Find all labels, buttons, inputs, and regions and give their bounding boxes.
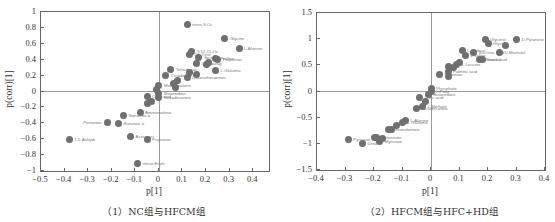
x-tick-mark xyxy=(516,167,517,170)
y-tick-label: −0.5 xyxy=(282,112,312,122)
x-tick-label: −0.2 xyxy=(358,173,388,183)
x-tick-label: 0.3 xyxy=(501,173,531,183)
y-tick-mark xyxy=(317,12,320,13)
x-tick-mark xyxy=(544,167,545,170)
data-point xyxy=(345,136,352,143)
data-point xyxy=(513,36,520,43)
y-tick-label: −1 xyxy=(282,138,312,148)
data-point xyxy=(436,71,443,78)
x-tick-mark xyxy=(487,167,488,170)
x-tick-mark xyxy=(316,167,317,170)
x-tick-mark xyxy=(345,167,346,170)
x-axis-label: p[1] xyxy=(410,186,450,196)
x-tick-label: 0 xyxy=(415,173,445,183)
point-label: D-Mannitol xyxy=(504,50,525,55)
x-tick-mark xyxy=(430,167,431,170)
x-tick-label: 0.1 xyxy=(444,173,474,183)
x-tick-mark xyxy=(402,167,403,170)
point-label: Stearic acid xyxy=(484,57,506,62)
data-point xyxy=(502,42,509,49)
point-label: D-Pyranose xyxy=(522,37,545,42)
y-tick-mark xyxy=(317,143,320,144)
point-label: Octadecanoic xyxy=(422,106,448,111)
y-axis-label: p(corr)[1] xyxy=(282,70,292,107)
point-label: Ethanolamine xyxy=(393,127,419,132)
figure-caption: （2）HFCM组与HFC+HD组 xyxy=(312,204,552,218)
y-tick-mark xyxy=(317,64,320,65)
y-tick-label: 0.5 xyxy=(282,59,312,69)
data-point xyxy=(399,119,406,126)
y-tick-mark xyxy=(317,91,320,92)
chart-hfcm-vs-hfc-hd: D-PyranoseGlycerolGlycineL-IsoleuciSucci… xyxy=(0,0,555,222)
point-label: Myristate xyxy=(385,139,402,144)
y-tick-mark xyxy=(317,117,320,118)
x-tick-label: −0.1 xyxy=(387,173,417,183)
x-tick-label: 0.2 xyxy=(472,173,502,183)
x-tick-label: −0.4 xyxy=(301,173,331,183)
data-point xyxy=(462,52,469,59)
data-point xyxy=(413,105,420,112)
y-tick-label: 1 xyxy=(282,33,312,43)
x-tick-mark xyxy=(459,167,460,170)
y-tick-label: 1.5 xyxy=(282,7,312,17)
data-point xyxy=(376,138,383,145)
data-point xyxy=(445,73,452,80)
x-tick-label: 0.4 xyxy=(529,173,555,183)
plot-area: D-PyranoseGlycerolGlycineL-IsoleuciSucci… xyxy=(316,12,546,171)
point-label: L-Leucine xyxy=(462,62,481,67)
data-point xyxy=(496,49,503,56)
x-tick-mark xyxy=(373,167,374,170)
data-point xyxy=(388,126,395,133)
y-tick-mark xyxy=(317,38,320,39)
x-tick-label: −0.3 xyxy=(330,173,360,183)
data-point xyxy=(485,40,492,47)
y-tick-mark xyxy=(317,169,320,170)
point-label: L-Glutamic xyxy=(408,120,429,125)
data-point xyxy=(359,140,366,147)
